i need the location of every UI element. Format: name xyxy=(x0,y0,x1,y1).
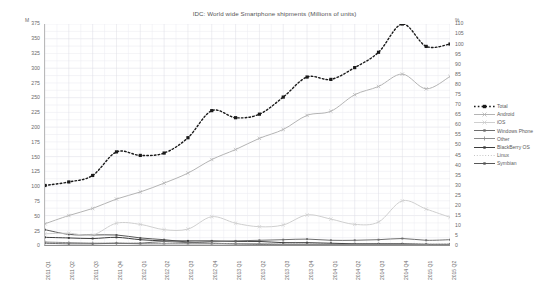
legend-item-total[interactable]: Total xyxy=(474,102,546,110)
legend-swatch-icon xyxy=(474,103,495,110)
legend-swatch-icon xyxy=(474,160,495,167)
y-axis-right-tick: 105 xyxy=(455,31,475,36)
legend-swatch-icon xyxy=(474,144,495,151)
y-axis-left-tick: 300 xyxy=(14,66,40,71)
series-layer xyxy=(45,24,450,245)
y-axis-right-tick: 90 xyxy=(455,62,475,67)
legend-label: Windows Phone xyxy=(497,128,533,134)
legend-label: Total xyxy=(497,103,508,109)
y-axis-left-tick: 375 xyxy=(14,21,40,26)
chart-container: IDC: World wide Smartphone shipments (Mi… xyxy=(0,0,549,288)
x-axis-tick: 2012 Q4 xyxy=(213,261,218,280)
legend-label: Android xyxy=(497,111,514,117)
x-axis-tick: 2015 Q2 xyxy=(452,261,457,280)
y-axis-right-tick: 95 xyxy=(455,52,475,57)
y-axis-left-tick: 325 xyxy=(14,51,40,56)
y-axis-left-tick: 350 xyxy=(14,36,40,41)
y-axis-right-tick: 80 xyxy=(455,82,475,87)
legend-label: BlackBerry OS xyxy=(497,144,530,150)
legend-label: Symbian xyxy=(497,160,516,166)
y-axis-right-tick: 40 xyxy=(455,163,475,168)
y-axis-right-tick: 0 xyxy=(455,243,475,248)
series-symbian xyxy=(45,229,450,245)
x-axis-tick: 2014 Q4 xyxy=(404,261,409,280)
y-axis-left-tick: 100 xyxy=(14,184,40,189)
legend-label: iOS xyxy=(497,119,505,125)
y-axis-left-tick: 125 xyxy=(14,169,40,174)
x-axis-tick: 2013 Q4 xyxy=(309,261,314,280)
x-axis-tick: 2011 Q2 xyxy=(70,261,75,280)
y-axis-right-tick: 75 xyxy=(455,92,475,97)
legend-swatch-icon xyxy=(474,135,495,142)
x-axis-tick: 2012 Q1 xyxy=(142,261,147,280)
y-axis-right-tick: 70 xyxy=(455,102,475,107)
legend-swatch-icon xyxy=(474,127,495,134)
y-axis-left-tick: 50 xyxy=(14,214,40,219)
y-axis-left-tick: 275 xyxy=(14,81,40,86)
y-axis-right-tick: 55 xyxy=(455,132,475,137)
x-axis-tick: 2013 Q3 xyxy=(285,261,290,280)
x-axis-tick: 2011 Q4 xyxy=(118,261,123,280)
legend-swatch-icon xyxy=(474,111,495,118)
x-axis-tick: 2013 Q1 xyxy=(237,261,242,280)
series-android xyxy=(45,72,450,225)
y-axis-right-tick: 45 xyxy=(455,153,475,158)
y-axis-left-tick: 25 xyxy=(14,229,40,234)
x-axis-tick: 2012 Q2 xyxy=(165,261,170,280)
chart-title: IDC: World wide Smartphone shipments (Mi… xyxy=(0,10,549,17)
legend-item-ios[interactable]: iOS xyxy=(474,118,546,126)
x-axis-tick: 2011 Q3 xyxy=(94,261,99,280)
x-axis-tick: 2014 Q3 xyxy=(380,261,385,280)
y-axis-right-tick: 110 xyxy=(455,21,475,26)
y-axis-right-tick: 35 xyxy=(455,173,475,178)
plot-area xyxy=(44,24,450,246)
legend-label: Linux xyxy=(497,152,509,158)
legend-swatch-icon xyxy=(474,119,495,126)
x-axis-tick: 2012 Q3 xyxy=(189,261,194,280)
y-axis-right-tick: 15 xyxy=(455,213,475,218)
y-axis-right-tick: 20 xyxy=(455,203,475,208)
y-axis-right-tick: 65 xyxy=(455,112,475,117)
legend-item-symbian[interactable]: Symbian xyxy=(474,159,546,167)
y-axis-right-tick: 5 xyxy=(455,233,475,238)
legend-item-android[interactable]: Android xyxy=(474,110,546,118)
y-axis-left-tick: 0 xyxy=(14,243,40,248)
legend-item-other[interactable]: Other xyxy=(474,135,546,143)
y-axis-right-tick: 25 xyxy=(455,193,475,198)
legend-item-linux[interactable]: Linux xyxy=(474,151,546,159)
chart-legend: TotalAndroidiOSWindows PhoneOtherBlackBe… xyxy=(474,102,546,168)
y-axis-right-tick: 85 xyxy=(455,72,475,77)
y-axis-left-tick: 175 xyxy=(14,140,40,145)
x-axis-tick: 2015 Q1 xyxy=(428,261,433,280)
y-axis-right-tick: 10 xyxy=(455,223,475,228)
y-axis-left-tick: 200 xyxy=(14,125,40,130)
x-axis-tick: 2014 Q1 xyxy=(333,261,338,280)
y-axis-left-tick: 150 xyxy=(14,155,40,160)
y-axis-right-tick: 60 xyxy=(455,122,475,127)
x-axis-tick: 2013 Q2 xyxy=(261,261,266,280)
legend-swatch-icon xyxy=(474,152,495,159)
y-axis-left-tick: 250 xyxy=(14,95,40,100)
y-axis-right-tick: 50 xyxy=(455,142,475,147)
legend-label: Other xyxy=(497,136,510,142)
y-axis-right-tick: 100 xyxy=(455,42,475,47)
x-axis-tick: 2011 Q1 xyxy=(46,261,51,280)
legend-item-windows-phone[interactable]: Windows Phone xyxy=(474,127,546,135)
series-ios xyxy=(45,199,450,237)
series-total xyxy=(45,24,450,187)
y-axis-right-tick: 30 xyxy=(455,183,475,188)
legend-item-blackberry-os[interactable]: BlackBerry OS xyxy=(474,143,546,151)
y-axis-left-tick: 75 xyxy=(14,199,40,204)
x-axis-tick: 2014 Q2 xyxy=(356,261,361,280)
y-axis-left-tick: 225 xyxy=(14,110,40,115)
